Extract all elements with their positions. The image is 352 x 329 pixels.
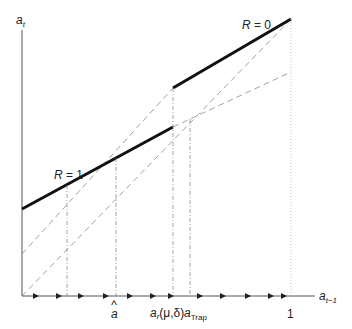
r0-line <box>173 19 291 88</box>
a-r-label: ar(μ,δ) <box>150 306 184 321</box>
r1-label: R = 1 <box>54 168 83 182</box>
one-label: 1 <box>287 307 294 321</box>
r1-line <box>22 127 173 209</box>
phase-diagram: at at−1 R = 0 R = 1 ^ a ar(μ,δ) aTrap 1 <box>0 0 352 329</box>
forty-five-degree-line <box>22 19 291 296</box>
a-hat-label: a <box>111 307 118 321</box>
a-trap-label: aTrap <box>184 306 207 322</box>
x-axis-label: at−1 <box>319 289 337 305</box>
r0-label: R = 0 <box>242 18 271 32</box>
r0-extension-dashed <box>22 88 173 254</box>
y-axis-label: at <box>16 13 26 29</box>
